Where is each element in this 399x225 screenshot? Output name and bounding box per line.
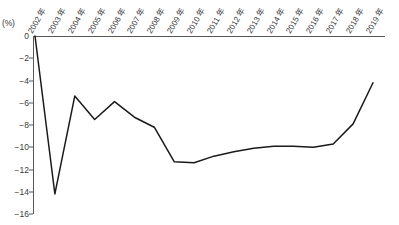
y-axis-tick-mark — [29, 147, 33, 148]
y-axis-tick-mark — [29, 80, 33, 81]
line-chart: (%) 0−2−4−6−8−10−12−14−16 2002 年2003 年20… — [0, 0, 399, 225]
y-axis-tick-mark — [29, 169, 33, 170]
y-axis-tick-mark — [29, 191, 33, 192]
y-axis-tick-mark — [29, 125, 33, 126]
y-axis-tick-mark — [29, 214, 33, 215]
y-axis-tick-mark — [29, 102, 33, 103]
series-line — [35, 36, 373, 194]
y-axis-tick-mark — [29, 58, 33, 59]
series-line-svg — [0, 0, 399, 225]
